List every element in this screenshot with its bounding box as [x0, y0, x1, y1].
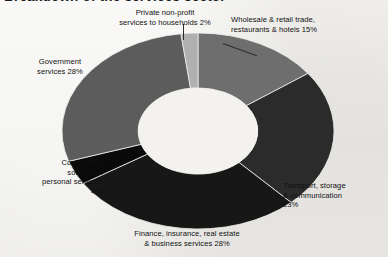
slice-label-private-non-profit-services: Private non-profit services to household…: [104, 8, 226, 27]
slice-label-transport-storage-communication: Transport, storage & communication 23%: [283, 181, 387, 210]
slice-label-wholesale-retail-trade: Wholesale & retail trade, restaurants & …: [231, 15, 363, 34]
services-sector-donut-chart: Breakdown of the services sector Private…: [0, 0, 388, 257]
slice-label-finance-insurance-real-estate: Finance, insurance, real estate & busine…: [96, 229, 278, 248]
donut-center-hole: [138, 88, 258, 174]
chart-title: Breakdown of the services sector: [4, 0, 226, 4]
slice-label-community-social-personal-services: Community, social and personal services …: [2, 158, 102, 196]
slice-label-government-services: Government services 28%: [14, 57, 106, 76]
